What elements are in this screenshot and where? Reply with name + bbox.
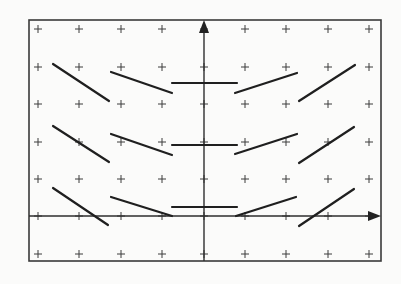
grid-plus-marker [282,63,290,71]
x-axis-arrow-icon [368,211,381,221]
grid-plus-marker [282,250,290,258]
grid-plus-marker [324,250,332,258]
grid-plus-marker [34,175,42,183]
grid-plus-marker [365,138,373,146]
slope-segment [111,72,172,93]
grid-plus-marker [158,25,166,33]
grid-plus-marker [324,100,332,108]
grid-plus-marker [324,25,332,33]
y-axis-arrow-icon [199,20,209,33]
grid-plus-marker [34,250,42,258]
slope-segment [299,127,354,163]
grid-plus-marker [117,100,125,108]
grid-plus-marker [282,100,290,108]
grid-plus-marker [241,25,249,33]
grid-plus-marker [34,63,42,71]
grid-plus-marker [241,250,249,258]
grid-plus-marker [365,100,373,108]
grid-plus-marker [365,250,373,258]
grid-plus-marker [75,100,83,108]
slope-segment [111,197,172,216]
slope-segment [299,189,354,226]
slope-segment [53,188,108,225]
grid-plus-marker [241,138,249,146]
grid-plus-marker [324,175,332,183]
grid-plus-marker [117,250,125,258]
grid-plus-marker [117,175,125,183]
grid-plus-marker [75,175,83,183]
grid-plus-marker [241,175,249,183]
grid-plus-marker [34,138,42,146]
grid-plus-marker [365,25,373,33]
slope-field-diagram [0,0,401,284]
grid-plus-marker [365,175,373,183]
grid-plus-marker [365,63,373,71]
grid-plus-marker [75,250,83,258]
grid-plus-marker [158,138,166,146]
slope-segment [111,134,172,155]
slope-segment [235,73,297,93]
grid-plus-marker [158,63,166,71]
slope-segment [53,64,109,101]
grid-plus-marker [34,100,42,108]
grid-plus-marker [158,100,166,108]
grid-plus-marker [117,25,125,33]
grid-plus-marker [241,63,249,71]
slope-segment [235,134,297,154]
slope-segment [53,126,109,162]
grid-plus-marker [241,100,249,108]
slope-segment [236,197,296,216]
grid-plus-marker [75,63,83,71]
slope-segment [299,65,355,101]
grid-plus-marker [282,175,290,183]
grid-plus-marker [117,63,125,71]
grid-plus-marker [158,250,166,258]
grid-plus-marker [75,25,83,33]
grid-plus-marker [282,25,290,33]
grid-plus-marker [158,175,166,183]
grid-plus-marker [34,25,42,33]
grid-plus-marker [324,63,332,71]
